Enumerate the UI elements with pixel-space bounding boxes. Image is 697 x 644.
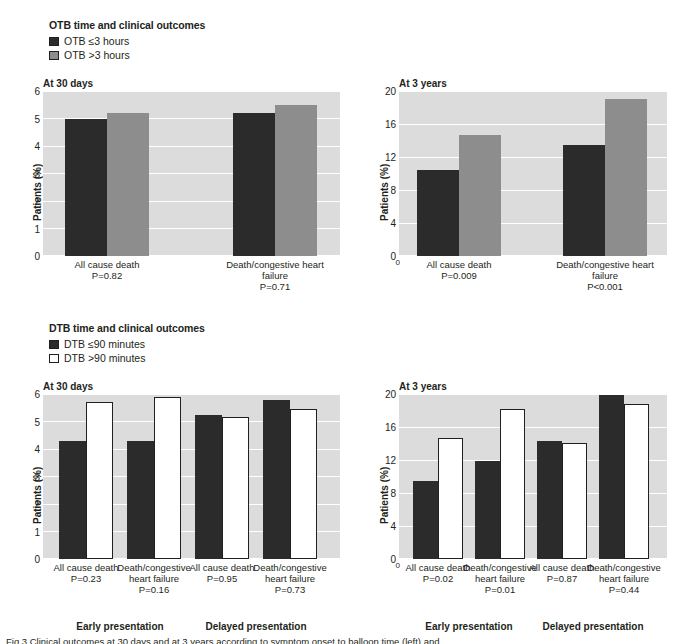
bar bbox=[263, 400, 290, 560]
group-label: Early presentation bbox=[399, 621, 539, 632]
plot-area bbox=[399, 91, 667, 256]
bar bbox=[233, 113, 275, 256]
legend-swatch-mid-icon bbox=[49, 51, 59, 60]
p-value: P=0.82 bbox=[52, 270, 162, 281]
x-axis-tick-label: All cause deathP=0.82 bbox=[52, 259, 162, 281]
y-axis-tick-label: 6 bbox=[24, 389, 40, 400]
y-axis-tick-label-zero-duplicate: 0 bbox=[375, 258, 400, 267]
x-axis-tick-label: All cause deathP=0.23 bbox=[49, 562, 123, 584]
legend-item-otb-le3h: OTB ≤3 hours bbox=[49, 35, 205, 48]
x-axis-tick-label: All cause deathP=0.95 bbox=[185, 562, 259, 584]
bar bbox=[107, 113, 149, 256]
x-axis-tick-label: All cause deathP=0.009 bbox=[404, 259, 514, 281]
gridline bbox=[399, 394, 667, 395]
y-axis-tick-label: 3 bbox=[24, 168, 40, 179]
bar bbox=[222, 417, 249, 559]
bar bbox=[127, 441, 154, 559]
legend-item-otb-gt3h: OTB >3 hours bbox=[49, 49, 205, 62]
p-value: P=0.009 bbox=[404, 270, 514, 281]
bar bbox=[195, 415, 222, 559]
bar bbox=[459, 135, 501, 256]
y-axis-tick-label: 4 bbox=[24, 444, 40, 455]
x-axis-category: Death/congestive heart failure bbox=[117, 562, 190, 584]
bar bbox=[562, 443, 587, 559]
x-axis-category: All cause death bbox=[406, 562, 471, 573]
y-axis-tick-label: 16 bbox=[371, 422, 396, 433]
p-value: P=0.16 bbox=[117, 584, 191, 595]
chart-title: At 3 years bbox=[399, 381, 681, 392]
x-axis-tick-label: Death/congestive heart failureP=0.73 bbox=[253, 562, 327, 595]
y-axis-tick-label: 2 bbox=[24, 196, 40, 207]
bar bbox=[605, 99, 647, 256]
plot-area bbox=[43, 394, 340, 559]
figure-caption: Fig 3 Clinical outcomes at 30 days and a… bbox=[6, 636, 696, 644]
y-axis-tick-label: 5 bbox=[24, 113, 40, 124]
bar bbox=[59, 441, 86, 559]
bar bbox=[438, 438, 463, 559]
y-axis-tick-label: 8 bbox=[371, 488, 396, 499]
gridline bbox=[43, 91, 340, 92]
x-axis-tick-label: Death/congestive heart failureP=0.44 bbox=[587, 562, 661, 595]
bar bbox=[599, 395, 624, 559]
y-axis-tick-label: 16 bbox=[371, 119, 396, 130]
y-axis-tick-label: 0 bbox=[24, 251, 40, 262]
group-label: Early presentation bbox=[50, 621, 190, 632]
y-axis-tick-label: 4 bbox=[371, 218, 396, 229]
x-axis-category: Death/congestive heart failure bbox=[226, 259, 324, 281]
plot-area bbox=[43, 91, 340, 256]
bar bbox=[413, 481, 438, 559]
otb-section-title: OTB time and clinical outcomes bbox=[49, 19, 205, 31]
x-axis-category: All cause death bbox=[75, 259, 140, 270]
p-value: P=0.44 bbox=[587, 584, 661, 595]
bar bbox=[563, 145, 605, 256]
legend-swatch-dark-icon bbox=[49, 37, 59, 46]
y-axis-tick-label: 2 bbox=[24, 499, 40, 510]
bar bbox=[65, 119, 107, 257]
x-axis-category: Death/congestive heart failure bbox=[556, 259, 654, 281]
y-axis-tick-label: 1 bbox=[24, 223, 40, 234]
p-value: P=0.71 bbox=[220, 281, 330, 292]
otb-section-header: OTB time and clinical outcomes OTB ≤3 ho… bbox=[49, 19, 205, 63]
p-value: P=0.01 bbox=[463, 584, 537, 595]
x-axis-category: Death/congestive heart failure bbox=[587, 562, 660, 584]
group-label: Delayed presentation bbox=[523, 621, 663, 632]
p-value: P=0.73 bbox=[253, 584, 327, 595]
otb-legend: OTB ≤3 hours OTB >3 hours bbox=[49, 35, 205, 62]
y-axis-tick-label: 20 bbox=[371, 86, 396, 97]
chart-title: At 30 days bbox=[43, 381, 340, 392]
bar bbox=[537, 441, 562, 559]
x-axis-category: All cause death bbox=[530, 562, 595, 573]
chart-otb-30-days: At 30 days Patients (%) 0123456 All caus… bbox=[24, 78, 340, 346]
x-axis-category: All cause death bbox=[190, 562, 255, 573]
y-axis-tick-label: 0 bbox=[24, 554, 40, 565]
x-axis-tick-label: Death/congestive heart failureP<0.001 bbox=[550, 259, 660, 292]
x-axis-tick-label: Death/congestive heart failureP=0.16 bbox=[117, 562, 191, 595]
gridline bbox=[43, 394, 340, 395]
group-label: Delayed presentation bbox=[186, 621, 326, 632]
x-axis-category: Death/congestive heart failure bbox=[253, 562, 326, 584]
legend-label: OTB >3 hours bbox=[64, 49, 130, 62]
plot-area bbox=[399, 394, 667, 559]
x-axis-tick-label: Death/congestive heart failureP=0.71 bbox=[220, 259, 330, 292]
gridline bbox=[399, 91, 667, 92]
y-axis-tick-label: 4 bbox=[371, 521, 396, 532]
bar bbox=[417, 170, 459, 256]
bar bbox=[624, 404, 649, 559]
y-axis-tick-label: 8 bbox=[371, 185, 396, 196]
y-axis-tick-label: 12 bbox=[371, 455, 396, 466]
y-axis-tick-label: 6 bbox=[24, 86, 40, 97]
p-value: P=0.23 bbox=[49, 573, 123, 584]
legend-swatch-white-icon bbox=[49, 354, 59, 363]
bar bbox=[290, 409, 317, 559]
x-axis-category: All cause death bbox=[54, 562, 119, 573]
bar bbox=[154, 397, 181, 559]
y-axis-tick-label: 1 bbox=[24, 526, 40, 537]
p-value: P<0.001 bbox=[550, 281, 660, 292]
bar bbox=[500, 409, 525, 559]
legend-label: OTB ≤3 hours bbox=[64, 35, 129, 48]
y-axis-tick-label: 12 bbox=[371, 152, 396, 163]
bar bbox=[275, 105, 317, 256]
y-axis-tick-label: 20 bbox=[371, 389, 396, 400]
bar bbox=[86, 402, 113, 559]
chart-title: At 30 days bbox=[43, 78, 340, 89]
